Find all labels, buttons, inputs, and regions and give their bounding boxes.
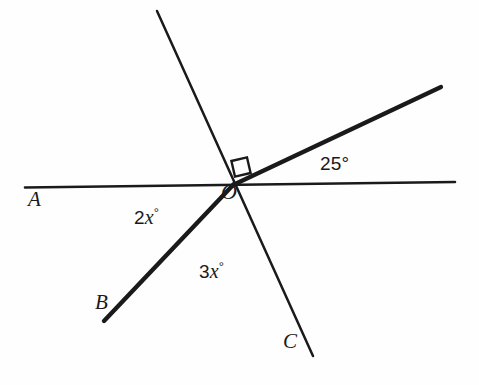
angle-2x-coefficient: 2	[134, 207, 145, 228]
ray-O-to-B	[104, 184, 234, 321]
angle-label-2x: 2x°	[134, 206, 159, 227]
vertex-label-o: O	[221, 181, 237, 203]
diagram-svg	[0, 0, 479, 385]
angle-label-3x: 3x°	[199, 260, 224, 281]
point-label-a: A	[28, 189, 41, 210]
geometry-diagram: A B C O 25° 2x° 3x°	[0, 0, 479, 385]
angle-2x-variable: x	[145, 206, 154, 228]
angle-3x-degree-sign: °	[219, 259, 224, 274]
right-angle-square-icon	[231, 157, 250, 176]
point-label-c: C	[283, 331, 297, 352]
point-label-b: B	[95, 292, 108, 313]
angle-2x-degree-sign: °	[154, 205, 159, 220]
angle-3x-coefficient: 3	[199, 261, 210, 282]
angle-label-25: 25°	[320, 154, 349, 173]
angle-3x-variable: x	[210, 260, 219, 282]
